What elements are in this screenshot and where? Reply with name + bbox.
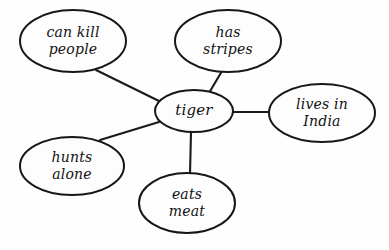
node-label-line: alone xyxy=(52,166,92,182)
node-has-stripes[interactable]: hasstripes xyxy=(175,10,281,72)
node-hunts-alone[interactable]: huntsalone xyxy=(20,137,124,195)
node-label-tiger: tiger xyxy=(175,101,213,119)
node-label-line: has xyxy=(215,24,240,40)
node-label-hunts-alone: huntsalone xyxy=(52,149,93,182)
edge-tiger-hunts-alone xyxy=(100,122,159,140)
node-tiger[interactable]: tiger xyxy=(155,90,233,132)
node-label-line: meat xyxy=(169,203,206,219)
node-label-line: stripes xyxy=(203,41,253,57)
node-label-line: eats xyxy=(172,186,202,202)
diagram-canvas: tigercan killpeoplehasstripeslives inInd… xyxy=(0,0,389,250)
node-label-lives-in-india: lives inIndia xyxy=(296,96,348,129)
node-lives-in-india[interactable]: lives inIndia xyxy=(269,84,375,142)
edge-tiger-eats-meat xyxy=(190,132,191,174)
node-eats-meat[interactable]: eatsmeat xyxy=(139,173,235,233)
node-can-kill-people[interactable]: can killpeople xyxy=(20,10,126,72)
edge-tiger-has-stripes xyxy=(209,71,222,93)
node-label-line: India xyxy=(302,113,340,129)
node-label-line: can kill xyxy=(46,24,99,40)
node-label-eats-meat: eatsmeat xyxy=(169,186,206,219)
node-label-line: hunts xyxy=(52,149,93,165)
nodes-layer: tigercan killpeoplehasstripeslives inInd… xyxy=(20,10,375,233)
edge-tiger-can-kill-people xyxy=(96,70,161,102)
node-label-line: people xyxy=(49,41,98,57)
node-label-line: lives in xyxy=(296,96,348,112)
node-label-can-kill-people: can killpeople xyxy=(46,24,99,57)
concept-map-diagram: tigercan killpeoplehasstripeslives inInd… xyxy=(0,0,389,250)
node-label-line: tiger xyxy=(175,101,213,119)
